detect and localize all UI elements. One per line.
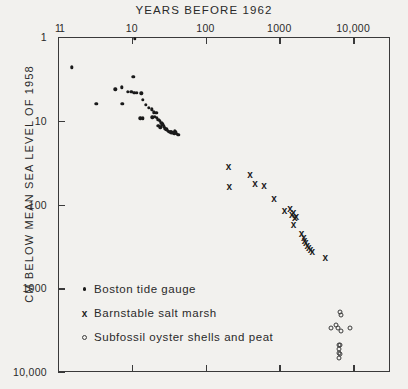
data-point-circle: [328, 326, 333, 331]
legend-item-subfossil-oyster-shells: Subfossil oyster shells and peat: [78, 325, 273, 349]
y-axis-tick-mark: [58, 288, 65, 289]
x-axis-tick-mark: [279, 365, 280, 372]
x-axis-tick-mark: [132, 365, 133, 372]
x-axis-tick-label: 100: [196, 22, 214, 34]
y-axis-tick-label: 100: [0, 199, 47, 211]
data-point-cross: x: [225, 162, 233, 172]
x-axis-origin-label: 1: [59, 22, 65, 34]
dot-marker-icon: [78, 283, 91, 296]
chart-title: YEARS BEFORE 1962: [0, 4, 408, 16]
data-point-cross: x: [290, 220, 298, 230]
y-axis-tick-mark: [58, 121, 65, 122]
y-axis-tick-mark: [58, 372, 65, 373]
data-point-cross: x: [225, 182, 233, 192]
data-point-cross: x: [251, 179, 259, 189]
data-point-cross: x: [308, 247, 316, 257]
data-point-cross: x: [260, 181, 268, 191]
y-axis-tick-label: 1: [0, 31, 47, 43]
y-axis-tick-label: 10,000: [0, 366, 47, 378]
legend-item-barnstable-salt-marsh: x Barnstable salt marsh: [78, 301, 273, 325]
x-axis-tick-mark: [206, 365, 207, 372]
legend-item-label: Barnstable salt marsh: [94, 307, 217, 319]
circle-marker-icon: [78, 331, 91, 344]
y-axis-label: CM BELOW MEAN SEA LEVEL OF 1958: [23, 19, 35, 349]
legend-item-label: Boston tide gauge: [94, 283, 196, 295]
y-axis-tick-label: 1000: [0, 282, 47, 294]
x-axis-tick-label: 10,000: [336, 22, 370, 34]
x-axis-tick-label: 10: [126, 22, 138, 34]
x-axis-tick-mark: [206, 37, 207, 44]
y-axis-tick-label: 10: [0, 115, 47, 127]
data-point-cross: x: [270, 194, 278, 204]
data-point-circle: [339, 313, 344, 318]
x-axis-tick-label: 1000: [267, 22, 292, 34]
data-point-circle: [348, 325, 353, 330]
legend-item-boston-tide-gauge: Boston tide gauge: [78, 277, 273, 301]
cross-marker-icon: x: [78, 307, 91, 320]
data-point-cross: x: [321, 253, 329, 263]
x-axis-tick-mark: [279, 37, 280, 44]
sea-level-chart-figure: YEARS BEFORE 1962 CM BELOW MEAN SEA LEVE…: [0, 0, 408, 389]
y-axis-tick-mark: [58, 205, 65, 206]
chart-legend: Boston tide gauge x Barnstable salt mars…: [78, 277, 273, 349]
x-axis-tick-mark: [353, 37, 354, 44]
legend-item-label: Subfossil oyster shells and peat: [94, 331, 273, 343]
x-axis-tick-mark: [353, 365, 354, 372]
data-point-circle: [337, 355, 342, 360]
data-point-circle: [338, 328, 343, 333]
